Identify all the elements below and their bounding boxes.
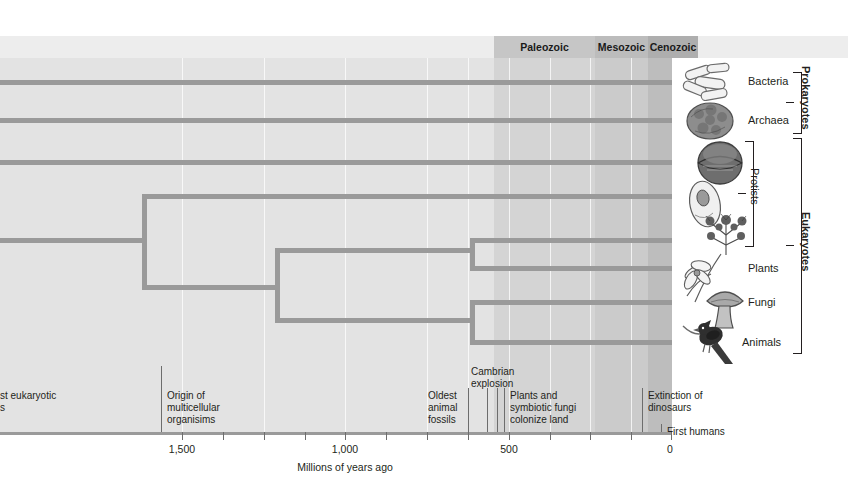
branch-archaea [0,118,672,123]
event-label-extinction-dinosaurs: Extinction of dinosaurs [648,390,702,414]
era-label-mesozoic: Mesozoic [595,36,648,58]
time-axis [0,432,672,435]
eventline-oldest-animal-fossils [468,388,469,432]
taxon-label-fungi: Fungi [748,296,776,308]
axis-tick-label-0: 0 [667,443,673,455]
eventline-extinction-dinosaurs [642,388,643,432]
gridline [427,58,428,432]
axis-tick [671,432,672,440]
branch-protist-2 [142,194,672,199]
branch-to-node-d [275,318,475,323]
event-label-cambrian-explosion: Cambrian explosion [471,366,514,390]
group-label-protists: Protists [749,168,761,205]
axis-tick [509,432,510,440]
axis-tick [550,432,551,440]
bracket-eukaryotes-tick [786,245,794,246]
group-label-prokaryotes: Prokaryotes [800,66,812,130]
eventline-cambrian-explosion-2 [497,388,498,432]
event-label-first-eukaryotic-cells: st eukaryotic s [0,390,56,414]
branch-bacteria [0,80,672,85]
taxon-label-plants: Plants [748,262,779,274]
gridline [590,58,591,432]
eventline-origin-multicellular [161,366,162,432]
bracket-prokaryotes-tick [786,102,794,103]
eventline-cambrian-explosion [487,388,488,432]
branch-to-node-c [275,248,475,253]
node-d-vertical [470,300,475,345]
gridline [631,58,632,432]
axis-tick [427,432,428,440]
node-b-vertical [275,248,280,323]
branch-plants [470,266,672,271]
axis-tick [386,432,387,440]
axis-tick-label-500: 500 [500,443,518,455]
gridline [468,58,469,432]
axis-tick [182,432,183,440]
event-label-oldest-animal-fossils: Oldest animal fossils [428,390,457,427]
axis-tick-label-1500: 1,500 [169,443,195,455]
animal-bird-illustration [677,318,735,370]
gridline [345,58,346,432]
axis-tick [305,432,306,440]
gridline [182,58,183,432]
node-root-vertical [142,194,147,290]
era-label-paleozoic: Paleozoic [494,36,595,58]
timeline-plot-area [0,58,672,432]
axis-tick [264,432,265,440]
bacteria-illustration [681,62,737,104]
taxon-label-archaea: Archaea [748,114,789,126]
axis-title: Millions of years ago [297,461,393,473]
axis-tick [590,432,591,440]
axis-tick [345,432,346,440]
taxon-label-bacteria: Bacteria [748,75,788,87]
tree-of-life-figure: Paleozoic Mesozoic Cenozoic [0,0,848,501]
branch-protist-3 [470,238,672,243]
branch-root-stem [0,238,147,243]
gridline [264,58,265,432]
branch-to-node-b [142,285,280,290]
shade-band-cenozoic [648,58,672,432]
axis-tick-label-1000: 1,000 [332,443,358,455]
event-label-plants-fungi-land: Plants and symbiotic fungi colonize land [510,390,576,427]
eventline-plants-fungi-land [504,388,505,432]
group-label-eukaryotes: Eukaryotes [800,212,812,271]
branch-fungi [470,300,672,305]
era-label-cenozoic: Cenozoic [648,36,698,58]
axis-tick [223,432,224,440]
eventline-first-humans [661,424,662,432]
event-label-first-humans: First humans [667,426,725,438]
axis-tick [631,432,632,440]
branch-protist-1 [0,160,672,165]
archaea-illustration [685,101,735,141]
taxon-label-animals: Animals [742,336,781,348]
shade-band-mesozoic [595,58,648,432]
era-header-bar [0,36,848,58]
axis-tick [468,432,469,440]
gridline [550,58,551,432]
event-label-origin-multicellular: Origin of multicellular organisims [167,390,220,427]
branch-animals [470,340,672,345]
bracket-protists-tick [738,193,746,194]
